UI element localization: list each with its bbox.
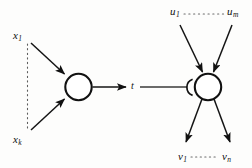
edge-right-node-to-v1: [186, 99, 202, 142]
edge-right-node-to-vn: [214, 99, 230, 142]
label-input-um-base: u: [227, 5, 233, 17]
label-output-v1: v1: [178, 151, 187, 164]
edge-um-to-right-node: [214, 25, 233, 72]
label-input-xk-subscript: k: [18, 138, 22, 147]
label-input-um: um: [227, 6, 238, 19]
label-input-x1-subscript: 1: [18, 34, 22, 43]
label-input-u1: u1: [170, 6, 180, 19]
label-output-v1-subscript: 1: [183, 155, 187, 164]
inhibitory-arc-marker: [187, 79, 193, 95]
diagram-canvas: [0, 0, 252, 168]
label-input-xk: xk: [13, 134, 22, 147]
label-input-u1-base: u: [170, 5, 176, 17]
right-node-circle: [195, 74, 221, 100]
edge-u1-to-right-node: [180, 25, 203, 72]
neuron-diagram: x1 xk t u1 um v1 vn: [0, 0, 252, 168]
label-connection-t-base: t: [131, 80, 134, 91]
label-connection-t: t: [131, 81, 134, 91]
edge-xk-to-left-node: [31, 99, 65, 130]
edge-x1-to-left-node: [31, 43, 65, 74]
label-input-x1: x1: [13, 30, 22, 43]
label-input-um-subscript: m: [233, 10, 239, 19]
label-input-u1-subscript: 1: [176, 10, 180, 19]
left-node-circle: [65, 74, 91, 100]
label-output-vn-subscript: n: [227, 155, 231, 164]
label-output-vn: vn: [222, 151, 231, 164]
